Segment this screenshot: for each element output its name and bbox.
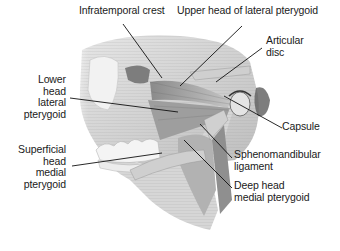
label-line: medial pterygoid xyxy=(234,192,309,204)
label-line: Lower xyxy=(10,74,66,86)
label-line: Articular xyxy=(266,35,304,47)
label-line: Deep head xyxy=(234,180,309,192)
label-line: pterygoid xyxy=(4,179,66,191)
label-sphenomandibular-ligament: Sphenomandibular ligament xyxy=(234,149,321,172)
anatomy-diagram: Infratemporal crest Upper head of latera… xyxy=(0,0,340,251)
label-line: lateral xyxy=(10,97,66,109)
label-articular-disc: Articular disc xyxy=(266,35,304,58)
label-lower-head-lateral-pterygoid: Lower head lateral pterygoid xyxy=(10,74,66,120)
label-line: ligament xyxy=(234,161,321,173)
label-line: medial xyxy=(4,167,66,179)
label-line: Upper head of lateral pterygoid xyxy=(177,5,318,17)
label-deep-head-medial-pterygoid: Deep head medial pterygoid xyxy=(234,180,309,203)
label-capsule: Capsule xyxy=(282,121,320,133)
label-superficial-head-medial-pterygoid: Superficial head medial pterygoid xyxy=(4,144,66,190)
label-line: Infratemporal crest xyxy=(79,5,165,17)
label-line: Superficial xyxy=(4,144,66,156)
label-infratemporal-crest: Infratemporal crest xyxy=(79,5,165,17)
label-line: Sphenomandibular xyxy=(234,149,321,161)
label-upper-head-lateral-pterygoid: Upper head of lateral pterygoid xyxy=(177,5,318,17)
label-line: Capsule xyxy=(282,121,320,133)
label-line: pterygoid xyxy=(10,109,66,121)
label-line: disc xyxy=(266,47,304,59)
